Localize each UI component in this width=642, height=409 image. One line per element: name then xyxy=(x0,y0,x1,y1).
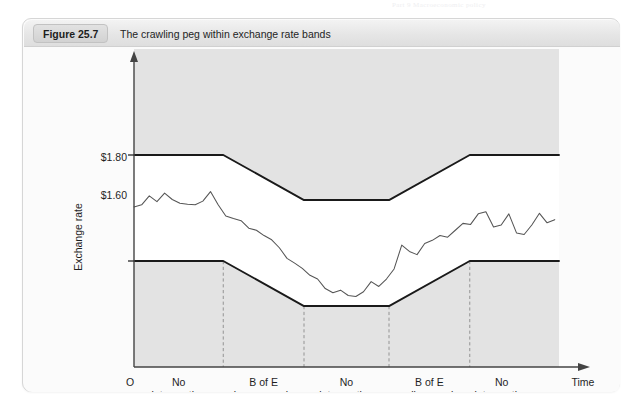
figure-caption-bar: Figure 25.7 The crawling peg within exch… xyxy=(24,20,620,47)
y-tick-label-lower: $1.60 xyxy=(101,189,127,201)
y-axis-ticks xyxy=(128,155,134,261)
phase-label-3-line1: No xyxy=(340,376,354,388)
y-tick-label-upper: $1.80 xyxy=(101,151,127,163)
phase-label-4-line1: B of E xyxy=(415,376,444,388)
phase-label-2-line1: B of E xyxy=(249,376,278,388)
phase-label-1-line1: No xyxy=(172,376,186,388)
exchange-rate-band-chart: $1.80 $1.60 Exchange rate O Time Nointer… xyxy=(24,47,620,392)
figure-plot-area: $1.80 $1.60 Exchange rate O Time Nointer… xyxy=(24,47,620,392)
x-axis-title: Time xyxy=(572,376,595,388)
phase-label-5-line1: No xyxy=(495,376,509,388)
y-axis-title: Exchange rate xyxy=(72,203,84,271)
figure-caption-text: The crawling peg within exchange rate ba… xyxy=(120,20,331,47)
phase-label-1-line2: intervention xyxy=(151,389,205,392)
phase-label-5-line2: intervention xyxy=(474,389,528,392)
phase-label-4-line2: sells pounds xyxy=(400,389,458,392)
page-header-ghost: Part 9 Macroeconomic policy xyxy=(392,1,636,10)
phase-label-2-line2: buys pounds xyxy=(234,389,294,392)
phase-label-3-line2: intervention xyxy=(319,389,373,392)
figure-card: Figure 25.7 The crawling peg within exch… xyxy=(22,18,620,392)
figure-number-badge: Figure 25.7 xyxy=(33,24,108,43)
phase-labels-group: NointerventionB of Ebuys poundsNointerve… xyxy=(151,376,528,392)
x-axis-arrowhead xyxy=(578,363,590,371)
origin-label: O xyxy=(126,376,134,388)
